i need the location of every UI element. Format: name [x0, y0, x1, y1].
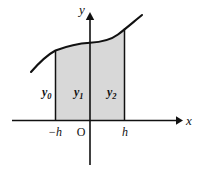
y-axis-arrowhead	[86, 12, 94, 20]
ordinate-label-y0: y0	[40, 85, 52, 101]
figure-container: y x −h O h y0 y1 y2	[0, 0, 200, 170]
x-axis-label: x	[185, 113, 192, 128]
x-tick-label-h: h	[122, 125, 128, 139]
x-axis-arrowhead	[176, 116, 183, 124]
ordinate-label-y2-subscript: 2	[111, 91, 117, 101]
origin-label: O	[77, 125, 86, 139]
ordinate-label-y0-subscript: 0	[47, 91, 52, 101]
ordinate-label-y1-subscript: 1	[79, 91, 83, 101]
x-tick-label-minus-h: −h	[48, 125, 62, 139]
simpsons-rule-diagram: y x −h O h y0 y1 y2	[0, 0, 200, 170]
y-axis-label: y	[77, 2, 85, 17]
